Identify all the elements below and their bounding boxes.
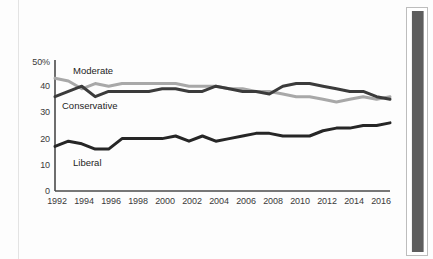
y-axis-tick-50: 50%	[24, 57, 50, 67]
series-line-liberal	[55, 123, 390, 149]
x-axis-tick-1998: 1998	[123, 196, 153, 206]
y-axis-tick-40: 40	[24, 81, 50, 91]
x-axis-tick-1996: 1996	[96, 196, 126, 206]
plot-area	[0, 0, 406, 259]
x-axis-tick-2004: 2004	[204, 196, 234, 206]
y-axis-tick-0: 0	[24, 186, 50, 196]
axis-lines	[55, 60, 390, 191]
series-label-liberal: Liberal	[73, 157, 102, 168]
x-axis-tick-1992: 1992	[42, 196, 72, 206]
x-axis-tick-1994: 1994	[69, 196, 99, 206]
x-axis-tick-2016: 2016	[366, 196, 396, 206]
line-chart: 50% 40 30 20 10 0 1992 1994 1996 1998 20…	[0, 0, 406, 259]
x-axis-tick-2014: 2014	[339, 196, 369, 206]
x-axis-tick-2002: 2002	[177, 196, 207, 206]
x-axis-tick-2010: 2010	[285, 196, 315, 206]
series-label-conservative: Conservative	[62, 100, 117, 111]
x-axis-tick-2012: 2012	[312, 196, 342, 206]
x-axis-tick-2008: 2008	[258, 196, 288, 206]
page-right-scrollbar[interactable]	[411, 11, 424, 252]
y-axis-tick-20: 20	[24, 134, 50, 144]
x-axis-tick-2006: 2006	[231, 196, 261, 206]
y-axis-tick-10: 10	[24, 160, 50, 170]
y-axis-tick-30: 30	[24, 107, 50, 117]
x-axis-tick-2000: 2000	[150, 196, 180, 206]
series-layer	[55, 78, 390, 149]
series-label-moderate: Moderate	[73, 65, 113, 76]
